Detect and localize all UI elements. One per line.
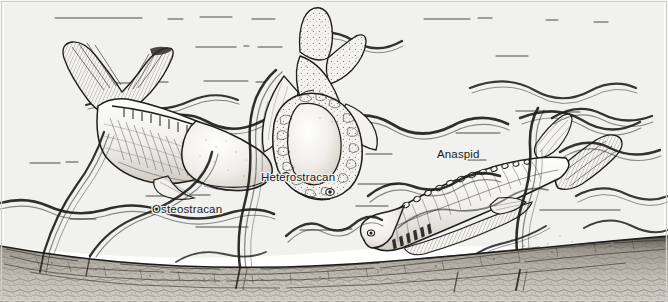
label-osteostracan: Osteostracan (152, 203, 222, 215)
label-anaspid: Anaspid (437, 148, 480, 160)
label-heterostracan: Heterostracan (261, 171, 335, 183)
figure-root: Osteostracan Heterostracan Anaspid (0, 0, 668, 302)
illustration-canvas: Osteostracan Heterostracan Anaspid (0, 0, 668, 302)
anaspid-eye (367, 230, 374, 236)
